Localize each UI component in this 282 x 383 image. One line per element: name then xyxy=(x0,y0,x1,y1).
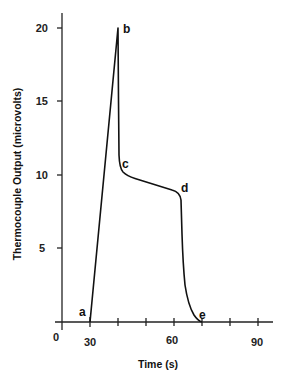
point-label-c: c xyxy=(122,157,129,171)
chart: 20 15 10 5 0 30 60 90 Time (s) Thermocou… xyxy=(0,0,282,383)
y-tick-label-10: 10 xyxy=(36,169,48,181)
point-label-d: d xyxy=(181,181,188,195)
y-ticks xyxy=(57,28,62,248)
y-tick-label-20: 20 xyxy=(36,22,48,34)
point-label-e: e xyxy=(199,308,206,322)
x-tick-label-90: 90 xyxy=(251,336,263,348)
x-tick-label-0: 0 xyxy=(53,331,59,343)
x-tick-label-30: 30 xyxy=(84,336,96,348)
y-axis-title: Thermocouple Output (microvolts) xyxy=(11,88,23,261)
y-tick-label-5: 5 xyxy=(39,242,45,254)
x-axis-title: Time (s) xyxy=(138,358,178,370)
y-tick-label-15: 15 xyxy=(36,95,48,107)
point-label-b: b xyxy=(123,22,130,36)
x-tick-label-60: 60 xyxy=(166,334,178,346)
thermocouple-curve xyxy=(90,28,202,322)
point-label-a: a xyxy=(79,305,86,319)
